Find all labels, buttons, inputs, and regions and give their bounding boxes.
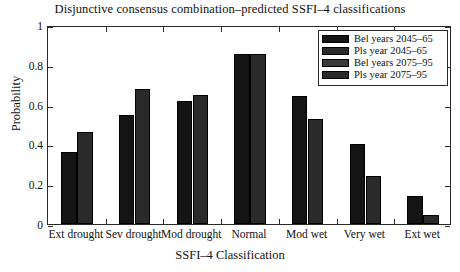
bar bbox=[250, 54, 266, 224]
bar bbox=[350, 144, 366, 224]
legend-item: Pls year 2075–95 bbox=[322, 70, 444, 82]
legend-item: Bel years 2075–95 bbox=[322, 58, 444, 70]
y-tick-mark bbox=[445, 226, 450, 227]
bar bbox=[366, 176, 382, 224]
legend-item: Pls year 2045–65 bbox=[322, 46, 444, 58]
bar bbox=[61, 152, 77, 224]
legend-swatch bbox=[322, 35, 349, 43]
bar bbox=[135, 89, 151, 224]
bar bbox=[423, 215, 439, 224]
x-tick-label: Ext wet bbox=[377, 228, 460, 240]
bar bbox=[234, 54, 250, 224]
figure: Disjunctive consensus combination–predic… bbox=[0, 0, 460, 272]
legend-item: Bel years 2045–65 bbox=[322, 34, 444, 46]
bar bbox=[292, 96, 308, 224]
bar bbox=[119, 115, 135, 224]
bar bbox=[77, 132, 93, 224]
bar bbox=[193, 95, 209, 224]
legend-label: Bel years 2075–95 bbox=[354, 58, 433, 69]
y-tick-label: 0.8 bbox=[0, 60, 43, 72]
y-tick-label: 0.4 bbox=[0, 139, 43, 151]
legend-swatch bbox=[322, 47, 349, 55]
chart-legend: Bel years 2045–65Pls year 2045–65Bel yea… bbox=[318, 30, 448, 86]
y-tick-label: 1 bbox=[0, 20, 43, 32]
bar bbox=[308, 119, 324, 224]
bar bbox=[407, 196, 423, 224]
legend-swatch bbox=[322, 71, 349, 79]
chart-title: Disjunctive consensus combination–predic… bbox=[0, 2, 460, 17]
legend-label: Pls year 2045–65 bbox=[354, 46, 427, 57]
y-tick-label: 0.6 bbox=[0, 100, 43, 112]
legend-label: Pls year 2075–95 bbox=[354, 70, 427, 81]
legend-swatch bbox=[322, 59, 349, 67]
y-tick-label: 0.2 bbox=[0, 179, 43, 191]
x-axis-title: SSFI–4 Classification bbox=[0, 248, 460, 263]
legend-label: Bel years 2045–65 bbox=[354, 34, 433, 45]
y-tick-mark bbox=[48, 226, 53, 227]
bar bbox=[177, 101, 193, 224]
